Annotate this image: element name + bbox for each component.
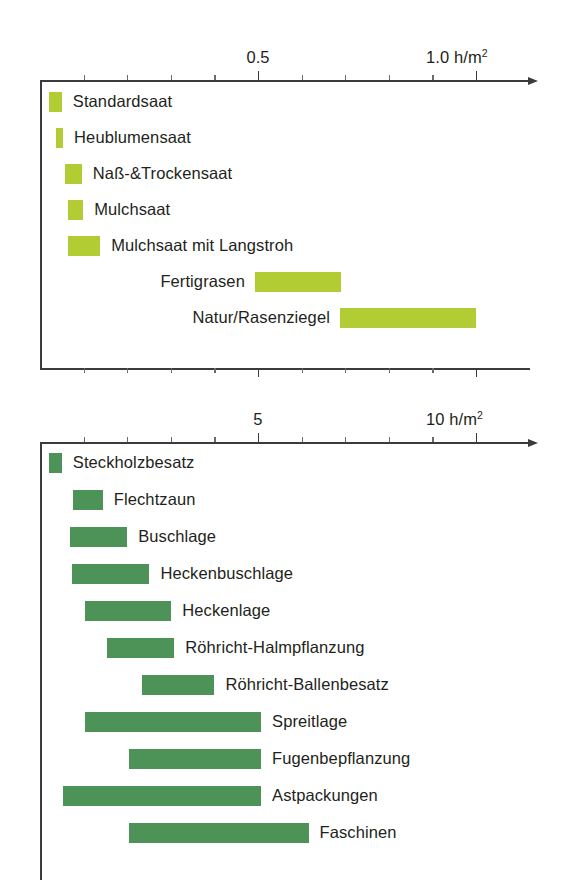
x-axis-tick — [214, 75, 215, 80]
x-axis-line — [40, 80, 530, 82]
x-axis-tick-bottom — [302, 368, 303, 373]
x-axis-tick — [302, 437, 303, 442]
bar-label-standardsaat: Standardsaat — [73, 92, 172, 111]
x-axis-tick — [84, 75, 85, 80]
x-axis-arrow-icon — [528, 77, 538, 85]
axis-area: 510 h/m2SteckholzbesatzFlechtzaunBuschla… — [0, 395, 574, 895]
x-axis-tick-label: 5 — [253, 410, 262, 429]
bar-label-nass-trockensaat: Naß-&Trockensaat — [93, 164, 232, 183]
chart-row: Standardsaat — [0, 92, 574, 112]
chart-row: Steckholzbesatz — [0, 453, 574, 473]
bar-label-rohricht-halmpflanzung: Röhricht-Halmpflanzung — [185, 638, 364, 657]
range-bar-fertigrasen — [255, 272, 341, 292]
x-axis-tick-bottom — [389, 368, 390, 373]
axis-area: 0.51.0 h/m2StandardsaatHeublumensaatNaß-… — [0, 0, 574, 395]
bar-label-natur-rasenziegel: Natur/Rasenziegel — [193, 308, 330, 327]
range-bar-mulchsaat — [68, 200, 83, 220]
chart-row: Heckenlage — [0, 601, 574, 621]
range-bar-natur-rasenziegel — [340, 308, 476, 328]
range-bar-steckholzbesatz — [49, 453, 62, 473]
x-axis-tick-bottom — [345, 368, 346, 373]
chart-row: Fertigrasen — [0, 272, 574, 292]
x-axis-tick — [345, 437, 346, 442]
x-axis-tick — [258, 71, 259, 80]
bar-label-heckenbuschlage: Heckenbuschlage — [160, 564, 293, 583]
chart-row: Röhricht-Ballenbesatz — [0, 675, 574, 695]
x-axis-tick-bottom — [476, 368, 477, 377]
chart-row: Heckenbuschlage — [0, 564, 574, 584]
chart-row: Fugenbepflanzung — [0, 749, 574, 769]
range-bar-flechtzaun — [73, 490, 103, 510]
range-bar-standardsaat — [49, 92, 62, 112]
bar-label-spreitlage: Spreitlage — [272, 712, 347, 731]
x-axis-tick — [214, 437, 215, 442]
chart-row: Buschlage — [0, 527, 574, 547]
bar-label-astpackungen: Astpackungen — [272, 786, 378, 805]
range-bar-heckenbuschlage — [72, 564, 150, 584]
range-bar-astpackungen — [63, 786, 261, 806]
bar-label-fugenbepflanzung: Fugenbepflanzung — [272, 749, 410, 768]
x-axis-tick-bottom — [214, 368, 215, 373]
bar-label-faschinen: Faschinen — [320, 823, 397, 842]
bar-label-mulchsaat-mit-langstroh: Mulchsaat mit Langstroh — [111, 236, 293, 255]
chart-row: Röhricht-Halmpflanzung — [0, 638, 574, 658]
x-axis-tick — [171, 437, 172, 442]
range-bar-rohricht-halmpflanzung — [107, 638, 175, 658]
x-axis-tick-bottom — [127, 368, 128, 373]
bar-label-heublumensaat: Heublumensaat — [74, 128, 191, 147]
x-axis-tick — [345, 75, 346, 80]
x-axis-tick — [476, 433, 477, 442]
chart-row: Mulchsaat — [0, 200, 574, 220]
range-bar-fugenbepflanzung — [129, 749, 261, 769]
x-axis-tick-label: 0.5 — [246, 48, 269, 67]
x-axis-tick-bottom — [258, 368, 259, 377]
x-axis-tick — [389, 437, 390, 442]
range-bar-spreitlage — [85, 712, 261, 732]
chart-row: Faschinen — [0, 823, 574, 843]
x-axis-tick-bottom — [84, 368, 85, 373]
bar-label-flechtzaun: Flechtzaun — [114, 490, 196, 509]
x-axis-tick-bottom — [171, 368, 172, 373]
x-axis-tick — [84, 437, 85, 442]
x-axis-tick — [127, 75, 128, 80]
x-axis-tick — [127, 437, 128, 442]
x-axis-tick-label: 1.0 h/m2 — [426, 48, 488, 67]
x-axis-tick — [476, 71, 477, 80]
chart-row: Spreitlage — [0, 712, 574, 732]
range-bar-nass-trockensaat — [65, 164, 82, 184]
x-axis-tick — [302, 75, 303, 80]
range-bar-buschlage — [70, 527, 128, 547]
chart-row: Naß-&Trockensaat — [0, 164, 574, 184]
bar-label-mulchsaat: Mulchsaat — [94, 200, 170, 219]
chart-bioengineering-methods: 510 h/m2SteckholzbesatzFlechtzaunBuschla… — [0, 395, 574, 895]
range-bar-mulchsaat-mit-langstroh — [68, 236, 100, 256]
chart-row: Astpackungen — [0, 786, 574, 806]
bar-label-steckholzbesatz: Steckholzbesatz — [73, 453, 195, 472]
chart-row: Heublumensaat — [0, 128, 574, 148]
x-axis-tick — [389, 75, 390, 80]
x-axis-tick-label: 10 h/m2 — [426, 410, 483, 429]
range-bar-heckenlage — [85, 601, 171, 621]
bar-label-fertigrasen: Fertigrasen — [160, 272, 245, 291]
bar-label-heckenlage: Heckenlage — [182, 601, 270, 620]
bar-label-rohricht-ballenbesatz: Röhricht-Ballenbesatz — [225, 675, 389, 694]
x-axis-line — [40, 442, 530, 444]
chart-row: Flechtzaun — [0, 490, 574, 510]
x-axis-tick — [432, 437, 433, 442]
x-axis-tick — [171, 75, 172, 80]
chart-row: Mulchsaat mit Langstroh — [0, 236, 574, 256]
chart-seeding-methods: 0.51.0 h/m2StandardsaatHeublumensaatNaß-… — [0, 0, 574, 395]
range-bar-faschinen — [129, 823, 308, 843]
x-axis-arrow-icon — [528, 439, 538, 447]
range-bar-rohricht-ballenbesatz — [142, 675, 214, 695]
chart-row: Natur/Rasenziegel — [0, 308, 574, 328]
x-axis-tick — [258, 433, 259, 442]
bar-label-buschlage: Buschlage — [138, 527, 216, 546]
x-axis-tick — [432, 75, 433, 80]
plot-bottom-line — [40, 368, 530, 370]
range-bar-heublumensaat — [56, 128, 63, 148]
x-axis-tick-bottom — [432, 368, 433, 373]
